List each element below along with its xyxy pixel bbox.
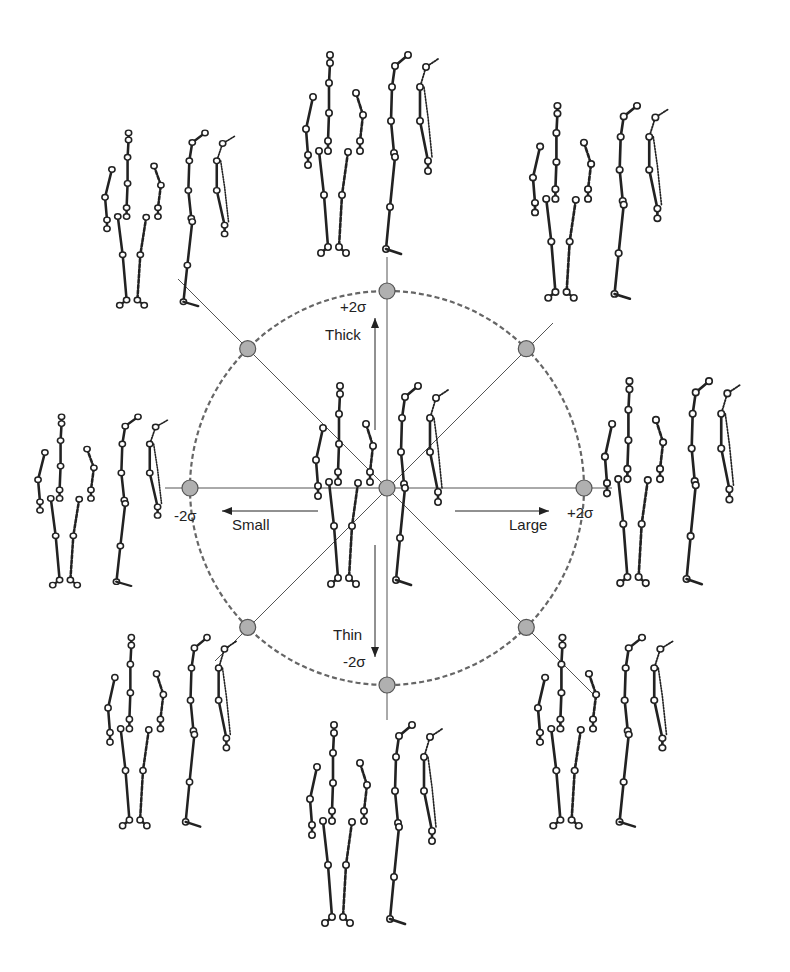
joint <box>573 197 580 203</box>
joint <box>657 476 664 483</box>
arm-trace-dotted <box>721 385 739 414</box>
joint <box>122 501 128 506</box>
joint <box>659 745 666 751</box>
joint <box>122 423 128 428</box>
joint <box>340 914 346 920</box>
joint <box>337 383 343 389</box>
joint <box>336 411 342 417</box>
joint <box>184 262 190 268</box>
joint <box>309 832 315 838</box>
joint <box>353 581 359 587</box>
joint <box>639 635 646 641</box>
joint <box>122 768 128 774</box>
joint <box>392 63 398 69</box>
sample-point-4 <box>379 677 395 693</box>
side-view-figure <box>393 383 421 585</box>
front-view-figure <box>303 52 366 256</box>
joint <box>153 424 159 429</box>
joint <box>126 726 132 732</box>
joint <box>35 477 41 482</box>
joint <box>535 705 542 711</box>
joint <box>621 697 628 703</box>
joint <box>726 496 733 503</box>
joint <box>345 149 351 155</box>
joint <box>397 535 403 541</box>
joint <box>146 727 152 733</box>
joint <box>427 449 433 455</box>
front-view-figure <box>530 103 595 301</box>
joint <box>153 671 159 677</box>
joint <box>578 727 585 733</box>
joint <box>56 496 62 501</box>
diagram-canvas <box>0 0 790 972</box>
joint <box>552 289 559 295</box>
joint <box>328 581 334 587</box>
joint <box>360 112 366 118</box>
joint <box>330 780 336 786</box>
joint <box>570 295 577 301</box>
joint <box>126 817 132 823</box>
joint <box>188 665 194 671</box>
sample-point-5 <box>518 341 534 357</box>
joint <box>435 499 441 505</box>
joint <box>88 487 94 492</box>
joint <box>186 779 192 785</box>
joint <box>325 138 331 144</box>
joint <box>125 137 131 143</box>
joint <box>554 110 561 116</box>
joint <box>609 421 616 428</box>
joint <box>216 665 222 671</box>
arm-trace-figure <box>421 729 442 844</box>
figure-group-bottom-left <box>105 635 236 829</box>
joint <box>396 824 402 830</box>
thick-label: Thick <box>325 327 361 342</box>
joint <box>625 437 632 444</box>
joint <box>585 196 592 202</box>
joint <box>624 574 631 581</box>
joint <box>37 508 43 513</box>
joint <box>548 238 555 244</box>
joint <box>88 496 94 501</box>
joint <box>625 406 632 413</box>
joint <box>329 914 335 920</box>
joint <box>409 722 415 728</box>
joint <box>361 808 367 814</box>
joint <box>325 862 331 868</box>
joint <box>563 289 570 295</box>
joint <box>581 140 588 146</box>
joint <box>128 635 134 641</box>
joint <box>558 661 565 667</box>
joint <box>221 222 227 228</box>
side-view-figure <box>113 414 141 586</box>
arm-trace-dotted <box>150 420 168 444</box>
joint <box>689 411 696 418</box>
joint <box>617 134 624 140</box>
joint <box>429 838 435 844</box>
trunk-line <box>332 725 334 821</box>
joint <box>552 196 559 202</box>
joint <box>543 196 550 202</box>
joint <box>557 726 564 732</box>
joint <box>392 154 398 160</box>
side-view-figure <box>611 103 640 299</box>
joint <box>42 450 48 455</box>
left-leg-line <box>319 151 328 253</box>
joint <box>617 580 624 587</box>
joint <box>590 726 597 732</box>
joint <box>104 217 110 223</box>
joint <box>718 411 725 418</box>
joint <box>154 504 160 509</box>
joint <box>310 94 316 100</box>
joint <box>117 543 123 548</box>
side-view-figure <box>387 722 415 924</box>
joint <box>652 114 659 120</box>
joint <box>566 238 573 244</box>
joint <box>155 214 161 220</box>
joint <box>74 582 80 587</box>
joint <box>50 582 56 587</box>
joint <box>396 733 402 739</box>
joint <box>590 716 597 722</box>
joint <box>107 739 113 745</box>
joint <box>571 768 578 774</box>
side-view-figure <box>616 635 645 827</box>
